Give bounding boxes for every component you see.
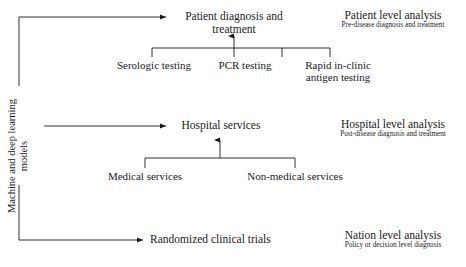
analysis-hospital-level: Hospital level analysis Post-disease dia… xyxy=(320,118,466,138)
node-randomized-clinical-trials: Randomized clinical trials xyxy=(150,233,310,246)
analysis-nation-level-subtitle: Policy or decision level diagnosis xyxy=(320,241,466,249)
analysis-patient-level-subtitle: Pre-disease diagnosis and treatment xyxy=(320,21,466,29)
flow-diagram: Machine and deep learning models Patient… xyxy=(0,0,466,267)
analysis-nation-level-title: Nation level analysis xyxy=(320,229,466,241)
analysis-hospital-level-subtitle: Post-disease diagnosis and treatment xyxy=(320,130,466,138)
spine-label: Machine and deep learning models xyxy=(6,86,30,226)
node-serologic-testing: Serologic testing xyxy=(106,59,202,71)
node-hospital-services: Hospital services xyxy=(166,119,276,132)
node-pcr-testing: PCR testing xyxy=(206,59,284,71)
analysis-patient-level-title: Patient level analysis xyxy=(320,9,466,21)
analysis-hospital-level-title: Hospital level analysis xyxy=(320,118,466,130)
analysis-patient-level: Patient level analysis Pre-disease diagn… xyxy=(320,9,466,29)
analysis-nation-level: Nation level analysis Policy or decision… xyxy=(320,229,466,249)
node-medical-services: Medical services xyxy=(92,170,198,182)
node-patient-diagnosis: Patient diagnosis and treatment xyxy=(154,10,314,36)
node-non-medical-services: Non-medical services xyxy=(232,170,358,182)
node-rapid-antigen-testing: Rapid in-clinic antigen testing xyxy=(288,59,388,84)
